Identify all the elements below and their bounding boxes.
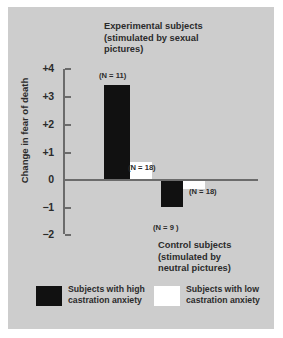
bar-experimental-high-anxiety [104, 85, 130, 179]
legend-label-line-2: castration anxiety [68, 295, 156, 306]
caption-line-1: Control subjects [158, 240, 263, 252]
legend-label-line-2: castration anxiety [186, 295, 274, 306]
bar-label-control-high: (N = 9 ) [153, 223, 179, 232]
bar-label-experimental-low: (N = 18) [128, 163, 156, 172]
y-tick-mark-plus3 [65, 96, 71, 98]
caption-line-3: pictures) [104, 44, 224, 56]
chart-figure: Change in fear of death +4 +3 +2 +1 0 −1… [8, 7, 274, 329]
caption-line-1: Experimental subjects [104, 21, 224, 33]
plot-area: Change in fear of death +4 +3 +2 +1 0 −1… [8, 7, 274, 329]
y-tick-mark-plus2 [65, 124, 71, 126]
y-tick-mark-plus4 [65, 68, 71, 70]
group-caption-control: Control subjects (stimulated by neutral … [158, 240, 263, 275]
y-tick-mark-minus2 [65, 234, 71, 236]
legend-label-line-1: Subjects with low [186, 284, 274, 295]
y-tick-label-minus1: −1 [20, 201, 54, 213]
y-tick-label-plus4: +4 [20, 62, 54, 74]
caption-line-2: (stimulated by [158, 252, 263, 264]
y-tick-label-plus1: +1 [20, 146, 54, 158]
y-tick-label-plus2: +2 [20, 118, 54, 130]
caption-line-2: (stimulated by sexual [104, 33, 224, 45]
bar-label-experimental-high: (N = 11) [99, 71, 126, 80]
y-tick-mark-plus1 [65, 152, 71, 154]
y-tick-mark-minus1 [65, 207, 71, 209]
legend-label-line-1: Subjects with high [68, 284, 156, 295]
chart-legend: Subjects with high castration anxiety Su… [36, 284, 261, 314]
bar-label-control-low: (N = 18) [189, 187, 217, 196]
legend-swatch-low-anxiety [154, 286, 180, 306]
legend-label-low-anxiety: Subjects with low castration anxiety [186, 284, 274, 306]
y-tick-label-zero: 0 [20, 173, 54, 185]
legend-swatch-high-anxiety [36, 286, 62, 306]
legend-label-high-anxiety: Subjects with high castration anxiety [68, 284, 156, 306]
bar-control-high-anxiety [161, 181, 183, 207]
y-tick-label-minus2: −2 [20, 228, 54, 240]
y-tick-label-plus3: +3 [20, 90, 54, 102]
group-caption-experimental: Experimental subjects (stimulated by sex… [104, 21, 224, 56]
caption-line-3: neutral pictures) [158, 263, 263, 275]
